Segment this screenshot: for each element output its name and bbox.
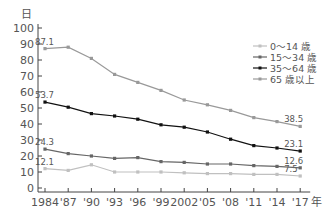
legend-label: 65 歳以上	[270, 74, 315, 85]
y-tick-label: 0	[27, 182, 34, 195]
x-tick-label: '87	[60, 196, 77, 209]
data-point	[113, 114, 116, 117]
y-tick-label: 100	[13, 22, 34, 35]
x-tick-label: '99	[152, 196, 169, 209]
data-point	[252, 144, 255, 147]
axes: 0102030405060708090100日1984'87'90'93'96'…	[13, 8, 322, 209]
legend: 0～14 歳15～34 歳35～64 歳65 歳以上	[253, 41, 317, 85]
data-point	[159, 160, 162, 163]
y-tick-label: 70	[20, 70, 34, 83]
data-point	[206, 103, 209, 106]
x-tick-label: '14	[268, 196, 285, 209]
series-line	[45, 149, 300, 168]
first-value-label: 53.7	[35, 90, 54, 100]
x-axis-label: 年	[311, 195, 322, 209]
legend-label: 35～64 歳	[270, 63, 317, 74]
data-point	[43, 148, 46, 151]
data-point	[252, 173, 255, 176]
data-point	[275, 165, 278, 168]
y-tick-label: 40	[20, 118, 34, 131]
data-point	[136, 118, 139, 121]
data-point	[90, 163, 93, 166]
data-point	[252, 116, 255, 119]
x-tick-label: '90	[83, 196, 100, 209]
data-point	[43, 167, 46, 170]
data-point	[113, 73, 116, 76]
x-tick-label: '11	[245, 196, 262, 209]
data-point	[113, 157, 116, 160]
x-tick-label: '05	[199, 196, 216, 209]
data-point	[206, 162, 209, 165]
data-point	[183, 171, 186, 174]
y-tick-label: 20	[20, 150, 34, 163]
data-point	[159, 123, 162, 126]
legend-marker	[259, 78, 262, 81]
data-point	[90, 154, 93, 157]
data-point	[90, 112, 93, 115]
last-value-label: 12.6	[284, 156, 303, 166]
data-point	[299, 125, 302, 128]
last-value-label: 38.5	[284, 114, 303, 124]
line-chart: 0102030405060708090100日1984'87'90'93'96'…	[0, 0, 328, 216]
data-point	[183, 98, 186, 101]
data-point	[159, 89, 162, 92]
data-point	[183, 126, 186, 129]
series-2: 53.723.1	[35, 90, 303, 153]
data-point	[90, 57, 93, 60]
series-3: 87.138.5	[35, 37, 303, 128]
data-point	[299, 174, 302, 177]
y-tick-label: 90	[20, 38, 34, 51]
x-tick-label: 2002	[170, 196, 198, 209]
data-point	[252, 164, 255, 167]
series-line	[45, 47, 300, 126]
x-tick-label: '96	[129, 196, 146, 209]
data-point	[299, 149, 302, 152]
legend-marker	[259, 45, 262, 48]
x-tick-label: '17	[292, 196, 309, 209]
data-point	[136, 170, 139, 173]
data-point	[183, 161, 186, 164]
data-point	[206, 130, 209, 133]
y-tick-label: 80	[20, 54, 34, 67]
data-point	[229, 138, 232, 141]
y-axis-label: 日	[21, 8, 32, 21]
data-point	[67, 169, 70, 172]
data-point	[275, 146, 278, 149]
y-tick-label: 60	[20, 86, 34, 99]
legend-label: 15～34 歳	[270, 52, 317, 63]
x-tick-label: '08	[222, 196, 239, 209]
series-0: 12.17.5	[35, 157, 302, 178]
data-point	[206, 172, 209, 175]
series-group: 12.17.524.312.653.723.187.138.5	[35, 37, 303, 178]
data-point	[136, 156, 139, 159]
data-point	[159, 170, 162, 173]
data-point	[113, 170, 116, 173]
legend-label: 0～14 歳	[270, 41, 311, 52]
data-point	[275, 120, 278, 123]
first-value-label: 24.3	[35, 137, 54, 147]
y-tick-label: 30	[20, 134, 34, 147]
data-point	[136, 81, 139, 84]
data-point	[67, 152, 70, 155]
data-point	[299, 166, 302, 169]
data-point	[67, 46, 70, 49]
data-point	[275, 173, 278, 176]
y-tick-label: 10	[20, 166, 34, 179]
data-point	[229, 162, 232, 165]
series-1: 24.312.6	[35, 137, 303, 169]
data-point	[67, 106, 70, 109]
data-point	[43, 100, 46, 103]
first-value-label: 87.1	[35, 37, 54, 47]
data-point	[229, 172, 232, 175]
x-tick-label: '93	[106, 196, 123, 209]
last-value-label: 23.1	[284, 139, 303, 149]
legend-marker	[259, 67, 262, 70]
x-tick-label: 1984	[31, 196, 59, 209]
y-tick-label: 50	[20, 102, 34, 115]
series-line	[45, 102, 300, 151]
data-point	[43, 47, 46, 50]
legend-marker	[259, 56, 262, 59]
data-point	[229, 109, 232, 112]
first-value-label: 12.1	[35, 157, 54, 167]
